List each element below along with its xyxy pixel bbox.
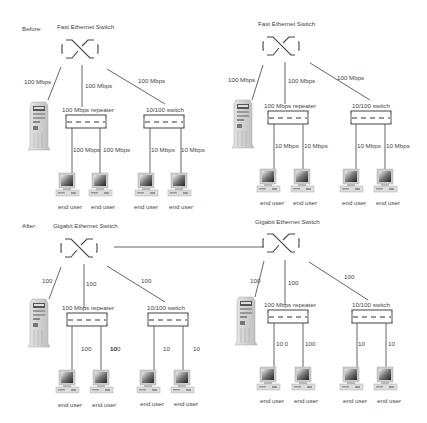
- computer-icon: [168, 173, 191, 196]
- end-user-label: end user: [294, 397, 318, 404]
- switch-10-100-icon: [351, 111, 391, 124]
- repeater-icon: [268, 310, 308, 323]
- computer-icon: [374, 367, 397, 390]
- link-label: 100: [86, 280, 97, 287]
- link-label: 100: [110, 345, 121, 352]
- computer-icon: [292, 367, 315, 390]
- server-icon: [232, 100, 254, 148]
- repeater-icon: [67, 313, 107, 326]
- link-label: 100 Mbps: [73, 146, 100, 153]
- link-label: 10: [163, 345, 170, 352]
- server-icon: [235, 297, 257, 345]
- fast-ethernet-switch-icon: [62, 40, 98, 58]
- repeater-label: 100 Mbps repeater: [62, 106, 114, 113]
- end-user-label: end user: [169, 203, 193, 210]
- switch-title: Gigabit Ethernet Switch: [53, 222, 118, 229]
- switch-10-100-icon: [148, 313, 188, 326]
- link-label: 10: [358, 340, 365, 347]
- computer-icon: [89, 173, 112, 196]
- end-user-label: end user: [377, 397, 401, 404]
- end-user-label: end user: [174, 400, 198, 407]
- link-label: 100: [141, 277, 152, 284]
- link-label: 10: [388, 340, 395, 347]
- computer-icon: [171, 370, 194, 393]
- after-section-label: After:: [22, 222, 37, 229]
- link-label: 100 Mbps: [85, 82, 112, 89]
- link-label: 10 0: [276, 340, 289, 347]
- gigabit-switch-icon: [61, 239, 97, 257]
- end-user-label: end user: [92, 401, 116, 408]
- computer-icon: [374, 169, 397, 192]
- repeater-label: 100 Mbps repeater: [62, 304, 114, 311]
- end-user-label: end user: [58, 203, 82, 210]
- repeater-icon: [268, 111, 308, 124]
- link-label: 100 Mbps: [24, 78, 51, 85]
- link-label: 100 Mbps: [228, 76, 255, 83]
- repeater-icon: [66, 115, 106, 128]
- switch-title: Fast Ethernet Switch: [57, 23, 115, 30]
- computer-icon: [340, 367, 363, 390]
- link-label: 100: [250, 277, 261, 284]
- link-label: 100 Mbps: [337, 74, 364, 81]
- switch-10-100-icon: [144, 115, 184, 128]
- gigabit-switch-icon: [263, 234, 299, 252]
- before-network-2: Fast Ethernet Switch 100 Mbps 100 Mbps 1…: [228, 20, 410, 206]
- computer-icon: [257, 169, 280, 192]
- link-label: 10 Mbps: [386, 142, 410, 149]
- link-label: 100 Mbps: [288, 77, 315, 84]
- link-label: 10 Mbps: [181, 146, 205, 153]
- end-user-label: end user: [260, 397, 284, 404]
- link-label: 10 Mbps: [357, 142, 381, 149]
- computer-icon: [56, 173, 79, 196]
- end-user-label: end user: [342, 199, 366, 206]
- link-label: 100: [305, 340, 316, 347]
- computer-icon: [291, 169, 314, 192]
- switch-label: 10/100 switch: [352, 102, 390, 109]
- switch-label: 10/100 switch: [352, 301, 390, 308]
- link-label: 100 Mbps: [138, 77, 165, 84]
- end-user-label: end user: [91, 203, 115, 210]
- switch-title: Fast Ethernet Switch: [258, 20, 316, 27]
- end-user-label: end user: [343, 397, 367, 404]
- link-label: 10 Mbps: [151, 146, 175, 153]
- computer-icon: [340, 169, 363, 192]
- link-label: 10 Mbps: [304, 142, 328, 149]
- after-network-1: After: Gigabit Ethernet Switch 100 100 1…: [22, 222, 200, 408]
- switch-title: Gigabit Ethernet Switch: [255, 218, 320, 225]
- computer-icon: [90, 370, 113, 393]
- before-network-1: Before: Fast Ethernet Switch 100 Mbps 10…: [22, 23, 205, 210]
- repeater-label: 100 Mbps repeater: [264, 102, 316, 109]
- link-label: 100: [42, 277, 53, 284]
- end-user-label: end user: [58, 401, 82, 408]
- computer-icon: [135, 173, 158, 196]
- link-label: 100: [288, 279, 299, 286]
- computer-icon: [137, 370, 160, 393]
- link-label: 10: [193, 345, 200, 352]
- repeater-label: 100 Mbps repeater: [264, 301, 316, 308]
- fast-ethernet-switch-icon: [263, 37, 299, 55]
- computer-icon: [257, 367, 280, 390]
- link-label: 100 Mbps: [103, 146, 130, 153]
- switch-10-100-icon: [352, 310, 392, 323]
- end-user-label: end user: [293, 199, 317, 206]
- link-label: 100: [81, 345, 92, 352]
- computer-icon: [56, 370, 79, 393]
- link-label: 10 Mbps: [275, 142, 299, 149]
- switch-label: 10/100 switch: [147, 304, 185, 311]
- link-label: 100: [344, 273, 355, 280]
- server-icon: [28, 102, 50, 150]
- end-user-label: end user: [140, 400, 164, 407]
- end-user-label: end user: [260, 199, 284, 206]
- network-diagram: Before: Fast Ethernet Switch 100 Mbps 10…: [0, 0, 427, 423]
- after-network-2: Gigabit Ethernet Switch 100 100 100 100 …: [235, 218, 401, 404]
- switch-label: 10/100 switch: [146, 106, 184, 113]
- end-user-label: end user: [376, 199, 400, 206]
- server-icon: [28, 299, 50, 347]
- before-section-label: Before:: [22, 25, 42, 32]
- end-user-label: end user: [134, 203, 158, 210]
